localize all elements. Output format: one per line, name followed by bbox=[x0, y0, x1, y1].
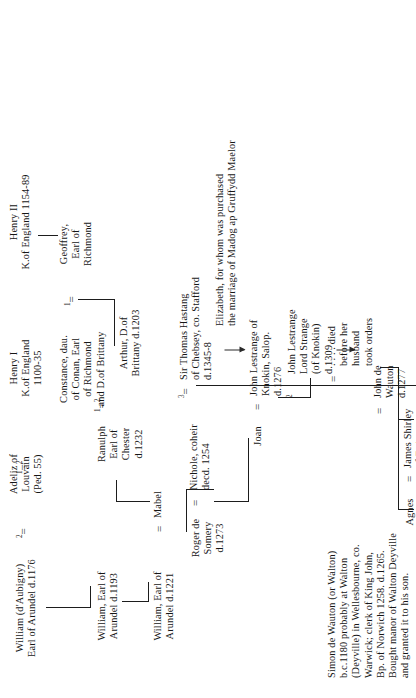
connector-1193-drop bbox=[122, 601, 148, 602]
node-roger-de-somery: Roger de Somery d.1273 bbox=[190, 508, 227, 568]
node-adeliz-of-louvain: Adeliz of Louvain (Ped. 55) bbox=[8, 436, 45, 512]
marriage-marker-geoffrey: 1= bbox=[66, 296, 77, 306]
arrow-hastang bbox=[225, 350, 245, 351]
node-ranulph-chester: Ranulph Earl of Chester d.1232 bbox=[96, 412, 145, 476]
connector-daubigny-to-1193 bbox=[90, 586, 91, 608]
connector-arundel-mabel-across bbox=[186, 489, 187, 532]
marker-sup-hastang: 3 bbox=[178, 394, 186, 398]
node-john-lestrange-knokin: John Lestrange of Knokin, Salop. d.1276 bbox=[248, 256, 285, 396]
equals-glyph-nichole: = bbox=[189, 500, 201, 506]
equals-glyph-geoffrey: = bbox=[65, 296, 77, 302]
node-william-daubigny: William (d'Aubigny) Earl of Arundel d.11… bbox=[14, 538, 38, 678]
connector-somery-drop bbox=[214, 501, 248, 502]
node-agnes: Agnes m.1247 bbox=[404, 482, 416, 542]
marker-sup-ranulph-1: 1 bbox=[94, 408, 102, 412]
equals-glyph-mabel: = bbox=[153, 526, 165, 532]
marriage-marker-hastang: 3= bbox=[180, 388, 191, 398]
node-henry-ii: Henry II K.of England 1154-89 bbox=[8, 146, 32, 298]
marriage-marker-wauton: = bbox=[374, 408, 385, 414]
marker-sup-ranulph-2: 2 bbox=[94, 399, 102, 403]
equals-glyph-daubigny: = bbox=[17, 528, 29, 534]
connector-to-arthur bbox=[114, 299, 115, 346]
equals-glyph-ranulph: = bbox=[95, 402, 107, 408]
node-william-arundel-1221: William, Earl of Arundel d.1221 bbox=[152, 536, 176, 676]
marriage-marker-simon-wife: = bbox=[328, 376, 339, 382]
connector-1193-to-1221 bbox=[148, 582, 149, 602]
marriage-marker-arundel-mabel: = bbox=[154, 526, 165, 532]
node-john-de-wauton: John de Wauton d.1277 bbox=[372, 328, 409, 398]
marriage-marker-agnes-shirley: = bbox=[404, 476, 415, 482]
node-henry-i: Henry I K.of England 1100-35 bbox=[8, 320, 45, 416]
marriage-marker-lestrange2: 2 bbox=[288, 394, 299, 398]
equals-glyph-wauton: = bbox=[373, 408, 385, 414]
node-mabel: Mabel bbox=[152, 458, 164, 518]
marriage-marker-joan-lestrange: = bbox=[252, 404, 263, 410]
note-simon-wife: . . . . died before her husband took ord… bbox=[326, 282, 375, 366]
connector-lestrange-across bbox=[310, 378, 311, 398]
connector-mabel-up bbox=[116, 501, 150, 502]
node-william-arundel-1193: William, Earl of Arundel d.1193 bbox=[96, 536, 120, 676]
note-elizabeth: Elizabeth, for whom was purchased the ma… bbox=[214, 64, 238, 326]
connector-geoffrey-constance-drop bbox=[78, 299, 114, 300]
node-geoffrey-richmond: Geoffrey, Earl of Richmond bbox=[58, 202, 95, 286]
equals-glyph-hastang: = bbox=[179, 388, 191, 394]
pedigree-chart: Henry I K.of England 1100-35 1=2 Adeliz … bbox=[0, 0, 416, 698]
connector-daubigny-drop bbox=[46, 607, 90, 608]
connector-henry-ii-drop bbox=[38, 235, 58, 236]
connector-mabel-to-ranulph bbox=[116, 480, 117, 502]
marriage-marker-ranulph: 1=2 bbox=[96, 399, 107, 412]
equals-glyph-simon: = bbox=[327, 376, 339, 382]
node-nichole: Nichole, coheir decd. 1254 bbox=[188, 370, 212, 490]
connector-maud-marriages bbox=[196, 385, 416, 386]
node-arthur-brittany: Arthur, D.of Brittany d.1203 bbox=[118, 288, 142, 398]
equals-glyph-agnes: = bbox=[403, 476, 415, 482]
marriage-marker-somery-nichole: = bbox=[190, 500, 201, 506]
node-sir-thomas-hastang: Sir Thomas Hastang of Chebsey, co. Staff… bbox=[178, 200, 215, 380]
marriage-marker-daubigny: 2= bbox=[18, 528, 29, 538]
node-joan: Joan bbox=[252, 412, 264, 460]
connector-somery-to-joan bbox=[248, 438, 249, 502]
marker-sup-lestrange2: 2 bbox=[286, 394, 294, 398]
equals-glyph-joan: = bbox=[251, 404, 263, 410]
